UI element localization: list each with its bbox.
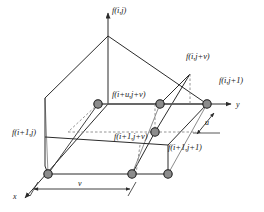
node-bottom-left	[44, 170, 52, 178]
dimension-label-v: v	[78, 180, 82, 188]
node-top-mid	[156, 100, 164, 108]
dimension-label-u: u	[205, 119, 209, 127]
node-interior	[151, 128, 159, 136]
label-f-i1-jv: f(i+1,j+v)	[114, 132, 147, 141]
label-f-i-j1: f(i,j+1)	[219, 76, 243, 85]
figure-canvas	[0, 0, 264, 212]
bilinear-interpolation-figure: f(i,j) f(i,j+v) f(i,j+1) f(i+u,j+v) f(i+…	[0, 0, 264, 212]
node-bottom-mid	[128, 170, 136, 178]
label-f-iu-jv: f(i+u,j+v)	[112, 90, 145, 99]
axis-x-line	[25, 104, 108, 198]
dimension-v	[30, 182, 136, 196]
axis-label-y: y	[236, 101, 240, 109]
node-bottom-right	[164, 170, 172, 178]
node-top-right	[203, 100, 211, 108]
node-top-back-left	[94, 100, 102, 108]
axis-label-x: x	[13, 193, 17, 201]
label-f-i-j: f(i,j)	[112, 6, 126, 15]
label-f-i1-j: f(i+1,j)	[12, 128, 36, 137]
label-f-i1-j1: f(i+1,j+1)	[168, 143, 202, 152]
label-f-i-jv: f(i,j+v)	[186, 52, 210, 61]
